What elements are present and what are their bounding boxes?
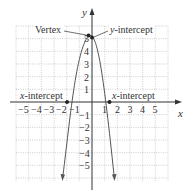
y-intercept-point (90, 36, 94, 40)
svg-text:−5: −5 (18, 104, 29, 115)
svg-text:−3: −3 (79, 135, 90, 146)
curve-arrow-right-icon (112, 174, 117, 181)
svg-text:−4: −4 (31, 104, 42, 115)
svg-text:−3: −3 (44, 104, 55, 115)
curve-arrow-left-icon (61, 174, 66, 181)
x-intercept-left-label: x-intercept (19, 90, 63, 101)
svg-text:5: 5 (153, 104, 158, 115)
svg-text:2: 2 (115, 104, 120, 115)
svg-text:2: 2 (84, 72, 89, 83)
vertex-point (87, 34, 91, 38)
svg-text:1: 1 (84, 84, 89, 95)
x-axis-arrow-icon (175, 100, 182, 105)
x-axis-label: x (177, 107, 183, 119)
y-axis-label: y (81, 6, 87, 18)
vertex-label: Vertex (35, 24, 61, 35)
x-intercept-right-label: x-intercept (111, 90, 155, 101)
svg-text:−5: −5 (79, 160, 90, 171)
y-intercept-leader-line (94, 31, 108, 37)
vertex-leader-line (64, 31, 86, 35)
svg-text:−1: −1 (79, 110, 90, 121)
y-intercept-label: y-intercept (109, 24, 153, 35)
svg-text:−2: −2 (79, 122, 90, 133)
y-axis-arrow-icon (90, 8, 95, 15)
svg-text:−4: −4 (79, 148, 90, 159)
x-intercept-right-point (108, 100, 112, 104)
svg-text:4: 4 (140, 104, 145, 115)
svg-text:3: 3 (84, 59, 89, 70)
parabola-graph: x y −5 −4 −3 −2 −1 1 2 3 4 5 5 4 3 2 1 −… (0, 0, 186, 193)
svg-text:4: 4 (84, 46, 89, 57)
svg-text:3: 3 (128, 104, 133, 115)
svg-text:−2: −2 (56, 104, 67, 115)
